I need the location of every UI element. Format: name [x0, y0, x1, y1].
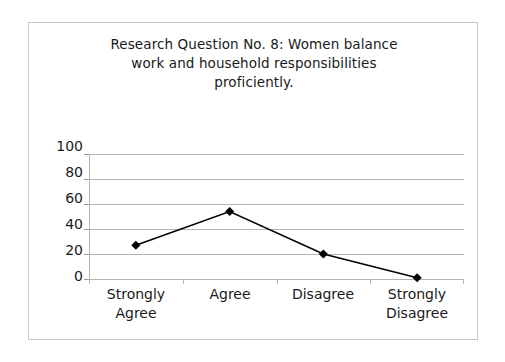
- y-tick-label-80: 80: [37, 165, 83, 179]
- x-category-tick-4: [463, 279, 464, 284]
- chart-frame: Research Question No. 8: Women balance w…: [28, 22, 478, 340]
- y-tick-label-0: 0: [37, 269, 83, 283]
- series-plot: [89, 154, 464, 279]
- series-markers: [131, 207, 421, 282]
- plot-wrapper: 100 80 60 40 20 0: [29, 23, 479, 341]
- y-tick-label-40: 40: [37, 217, 83, 231]
- x-category-tick-1: [183, 279, 184, 284]
- y-tick-label-60: 60: [37, 191, 83, 205]
- data-point-marker: [413, 273, 422, 282]
- x-category-tick-3: [370, 279, 371, 284]
- x-axis-category-labels: Strongly Agree Agree Disagree Strongly D…: [89, 285, 464, 331]
- data-point-marker: [131, 241, 140, 250]
- x-category-tick-2: [277, 279, 278, 284]
- y-tick-label-100: 100: [37, 139, 83, 153]
- plot-area: [89, 154, 464, 279]
- series-line-path: [136, 212, 417, 278]
- data-point-marker: [225, 207, 234, 216]
- y-axis-tick-labels: 100 80 60 40 20 0: [37, 146, 83, 276]
- x-category-label-strongly-disagree: Strongly Disagree: [361, 285, 473, 323]
- x-category-tick-0: [89, 279, 90, 284]
- y-tick-label-20: 20: [37, 243, 83, 257]
- data-point-marker: [319, 249, 328, 258]
